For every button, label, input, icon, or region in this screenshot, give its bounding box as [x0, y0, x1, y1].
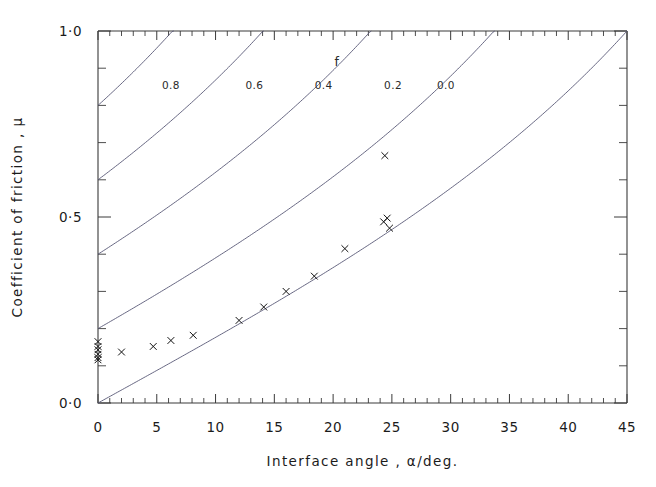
chart-svg: 0510152025303540450·00·51·00.80.60.40.20…: [0, 0, 656, 487]
x-tick-label: 40: [559, 419, 577, 435]
curve-f-0.4: [98, 31, 371, 254]
data-point-marker: [118, 349, 125, 356]
x-tick-label: 5: [152, 419, 161, 435]
data-point-marker: [167, 337, 174, 344]
curve-f-0.8: [98, 31, 174, 105]
x-tick-label: 30: [442, 419, 460, 435]
data-point-marker: [283, 288, 290, 295]
y-tick-label: 1·0: [59, 23, 82, 39]
data-point-marker: [190, 332, 197, 339]
x-tick-label: 15: [265, 419, 283, 435]
data-point-marker: [384, 215, 391, 222]
data-point-marker: [341, 245, 348, 252]
x-tick-label: 20: [324, 419, 342, 435]
friction-chart-figure: 0510152025303540450·00·51·00.80.60.40.20…: [0, 0, 656, 487]
y-axis-label: Coefficient of friction , μ: [9, 117, 25, 318]
x-tick-label: 35: [500, 419, 518, 435]
x-tick-label: 0: [93, 419, 102, 435]
y-tick-label: 0·5: [59, 209, 82, 225]
curve-label-0.6: 0.6: [245, 79, 263, 91]
x-tick-label: 45: [618, 419, 636, 435]
curve-f-0.2: [98, 31, 495, 329]
x-tick-label: 25: [383, 419, 401, 435]
data-point-marker: [381, 152, 388, 159]
y-tick-label: 0·0: [59, 395, 82, 411]
data-point-marker: [386, 225, 393, 232]
x-axis-label: Interface angle , α/deg.: [267, 453, 459, 469]
data-point-marker: [311, 273, 318, 280]
curve-label-0.8: 0.8: [162, 79, 180, 91]
curve-label-0.2: 0.2: [384, 79, 402, 91]
curve-label-0.4: 0.4: [315, 79, 333, 91]
curve-f-0.6: [98, 31, 264, 180]
curve-label-0.0: 0.0: [437, 79, 455, 91]
x-tick-label: 10: [206, 419, 224, 435]
data-point-marker: [236, 317, 243, 324]
legend-title-f: f: [334, 54, 339, 69]
data-point-marker: [150, 343, 157, 350]
